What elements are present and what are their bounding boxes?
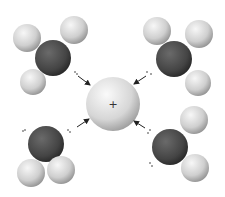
cation-charge-label: +: [108, 98, 117, 111]
hydrogen-atom: [47, 156, 75, 184]
hydrogen-atom: [20, 69, 46, 95]
cation: +: [86, 77, 140, 131]
arrow-icon: [134, 121, 145, 128]
hydrogen-atom: [181, 154, 209, 182]
water-molecule-bottom-right: [147, 106, 209, 182]
cation-hydration-diagram: +: [0, 0, 225, 197]
hydrogen-atom: [180, 106, 208, 134]
hydrogen-atom: [60, 16, 88, 44]
water-molecule-top-left: [13, 16, 88, 95]
arrow-icon: [134, 76, 146, 84]
oxygen-atom: [35, 40, 71, 76]
hydrogen-atom: [13, 24, 41, 52]
lone-pair-dots: [146, 71, 152, 75]
hydrogen-atom: [185, 70, 211, 96]
hydrogen-atom: [143, 17, 171, 45]
arrow-icon: [77, 119, 89, 127]
lone-pair-dots: [147, 129, 153, 167]
hydrogen-atom: [17, 159, 45, 187]
hydrogen-atom: [185, 20, 213, 48]
water-molecule-bottom-left: [17, 126, 75, 187]
water-molecule-top-right: [143, 17, 213, 96]
oxygen-atom: [156, 41, 192, 77]
arrow-icon: [78, 76, 90, 85]
oxygen-atom: [152, 129, 188, 165]
lone-pair-dots: [74, 71, 78, 75]
